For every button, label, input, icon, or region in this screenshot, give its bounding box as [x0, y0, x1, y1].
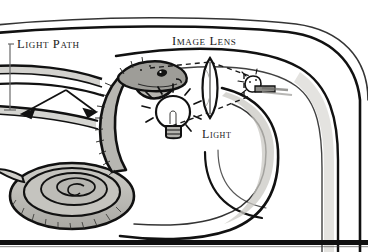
label-light-path: Light Path: [17, 38, 80, 51]
label-image-lens: Image Lens: [172, 35, 236, 48]
bottom-rule: [0, 240, 368, 245]
figure-container: Light Path Image Lens Light: [0, 0, 368, 252]
image-lens: [203, 58, 218, 118]
label-light: Light: [202, 128, 231, 140]
bottom-rule-shadow: [0, 246, 368, 247]
